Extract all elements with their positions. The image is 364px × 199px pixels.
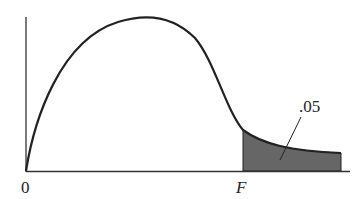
density-curve	[26, 17, 341, 171]
f-distribution-chart: 0 F .05	[0, 0, 364, 199]
tail-area-label: .05	[299, 97, 320, 116]
origin-label: 0	[21, 178, 30, 197]
critical-value-label: F	[235, 178, 247, 197]
